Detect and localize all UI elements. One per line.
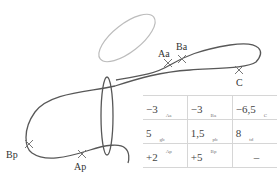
table-cell: −6,5C <box>232 96 277 120</box>
table-cell: −3Ba <box>187 96 232 120</box>
cell-subscript: Ba <box>211 113 217 118</box>
cross-mark-icon <box>178 55 186 63</box>
table-cell: +5Bp <box>187 144 232 168</box>
cell-value: 5 <box>146 127 152 139</box>
cell-superscript: Bp <box>211 149 217 154</box>
vertical-ellipse <box>101 77 113 155</box>
cell-value: 8 <box>236 127 242 139</box>
cell-subscript: C <box>264 113 267 118</box>
cell-value: +5 <box>191 151 203 163</box>
cell-value: −3 <box>146 103 158 115</box>
label-Aa: Aa <box>158 48 170 59</box>
cell-value: −6,5 <box>236 103 256 115</box>
label-Ap: Ap <box>74 161 86 172</box>
values-table: −3Aa −3Ba −6,5C 5gb 1,5pb 8td +2Ap +5Bp … <box>143 95 277 168</box>
table-row: 5gb 1,5pb 8td <box>143 120 277 144</box>
label-Ba: Ba <box>176 41 188 52</box>
cell-superscript: Ap <box>166 149 172 154</box>
cell-subscript: pb <box>213 137 218 142</box>
label-Bp: Bp <box>6 149 18 160</box>
table-cell: 1,5pb <box>187 120 232 144</box>
table-cell: – <box>232 144 277 168</box>
upper-ellipse <box>92 6 163 70</box>
table-cell: 5gb <box>143 120 187 144</box>
cell-value: – <box>254 151 260 163</box>
table-row: +2Ap +5Bp – <box>143 144 277 168</box>
cross-mark-icon <box>78 150 86 158</box>
table-row: −3Aa −3Ba −6,5C <box>143 96 277 120</box>
cell-value: 1,5 <box>191 127 205 139</box>
cell-subscript: td <box>249 137 253 142</box>
label-C: C <box>236 77 243 88</box>
table-cell: −3Aa <box>143 96 187 120</box>
cell-subscript: Aa <box>166 113 172 118</box>
cell-value: +2 <box>146 151 158 163</box>
cell-value: −3 <box>191 103 203 115</box>
table-cell: +2Ap <box>143 144 187 168</box>
table-cell: 8td <box>232 120 277 144</box>
cell-subscript: gb <box>160 137 165 142</box>
